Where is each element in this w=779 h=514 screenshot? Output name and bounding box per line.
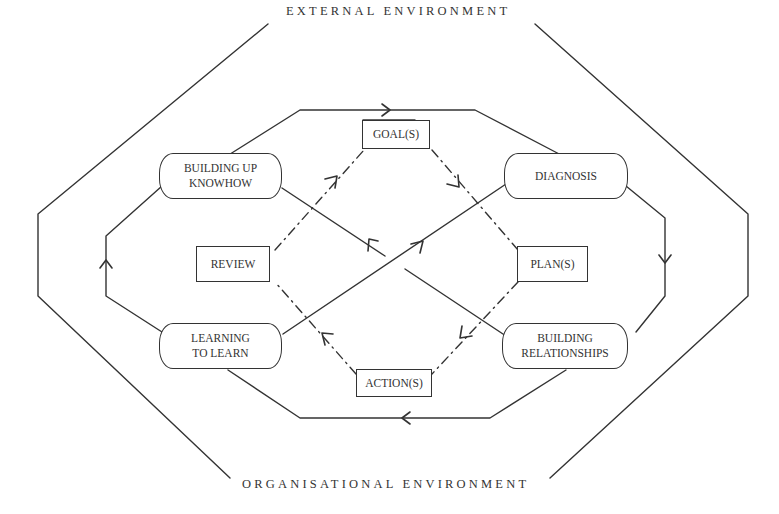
node-label-line1: LEARNING: [191, 331, 250, 346]
node-actions: ACTION(S): [356, 369, 432, 397]
node-goals: GOAL(S): [362, 120, 430, 149]
node-label-line2: TO LEARN: [191, 346, 250, 361]
node-learning-to-learn: LEARNING TO LEARN: [159, 323, 282, 369]
node-building-up-knowhow: BUILDING UP KNOWHOW: [159, 153, 282, 199]
arrow-dashdot-down-left-icon: [460, 326, 472, 338]
node-diagnosis: DIAGNOSIS: [504, 153, 628, 199]
node-label-line1: DIAGNOSIS: [535, 169, 597, 184]
node-label-line1: BUILDING UP: [184, 161, 257, 176]
arrow-dashdot-up-left-icon: [322, 333, 333, 345]
node-label-line1: BUILDING: [521, 331, 609, 346]
external-environment-label: EXTERNAL ENVIRONMENT: [286, 4, 510, 19]
node-review: REVIEW: [196, 246, 270, 282]
node-label-line2: KNOWHOW: [184, 176, 257, 191]
outer-environment-boundary: [38, 24, 748, 478]
node-building-relationships: BUILDING RELATIONSHIPS: [502, 323, 628, 369]
arrow-dashdot-down-right-icon: [447, 175, 459, 187]
organisational-environment-label: ORGANISATIONAL ENVIRONMENT: [242, 477, 529, 492]
crossing-lines: [282, 184, 506, 336]
node-plans: PLAN(S): [517, 246, 588, 282]
node-label-line2: RELATIONSHIPS: [521, 346, 609, 361]
inner-cycle: [275, 150, 518, 374]
diagram-canvas: [0, 0, 779, 514]
